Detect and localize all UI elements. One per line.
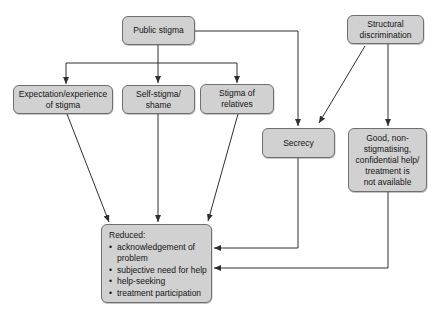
edge-relatives-to-reduced	[208, 114, 238, 221]
edge-secrecy-to-reduced	[214, 158, 298, 248]
reduced-outcome-item: help-seeking	[109, 276, 207, 288]
box-reduced-outcomes: Reduced: acknowledgement of problem subj…	[101, 224, 212, 303]
edge-expectation-to-reduced	[67, 114, 109, 222]
box-secrecy: Secrecy	[262, 128, 335, 158]
box-help-not-available: Good, non- stigmatising, confidential he…	[348, 128, 427, 192]
reduced-outcome-item: subjective need for help	[109, 265, 207, 277]
edge-structural-to-secrecy	[319, 46, 365, 123]
reduced-outcome-item: treatment participation	[109, 288, 207, 300]
box-expectation-experience-of-stigma: Expectation/experience of stigma	[13, 85, 113, 114]
stigma-flow-diagram: Public stigma Structural discrimination …	[0, 0, 438, 309]
edge-help-unavailable-to-reduced	[214, 192, 388, 268]
box-public-stigma: Public stigma	[122, 16, 195, 45]
reduced-outcomes-title: Reduced:	[109, 230, 207, 242]
reduced-outcomes-list: acknowledgement of problem subjective ne…	[109, 242, 207, 300]
box-structural-discrimination: Structural discrimination	[347, 15, 424, 44]
box-stigma-of-relatives: Stigma of relatives	[200, 84, 274, 114]
reduced-outcome-item: acknowledgement of problem	[109, 242, 207, 265]
box-self-stigma-shame: Self-stigma/ shame	[122, 85, 195, 114]
